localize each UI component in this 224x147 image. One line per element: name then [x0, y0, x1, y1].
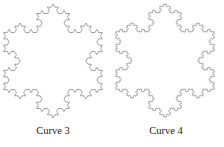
koch-snowflake-curve-4	[112, 0, 224, 125]
koch-curve-4-figure: Curve 4	[112, 0, 224, 147]
caption-curve-3: Curve 3	[0, 125, 109, 136]
koch-snowflake-curve-3	[0, 0, 112, 125]
koch-curve-4-path	[116, 4, 215, 118]
koch-curve-3-figure: Curve 3	[0, 0, 112, 147]
koch-curve-3-path	[4, 4, 103, 118]
caption-curve-4: Curve 4	[110, 125, 222, 136]
